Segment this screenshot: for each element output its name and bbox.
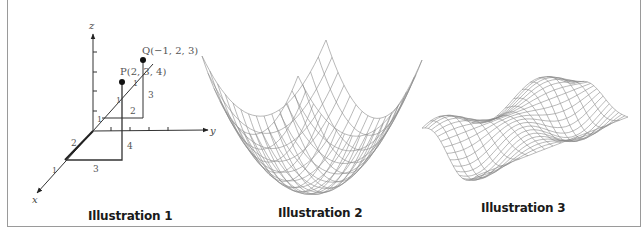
coordinate-system-diagram: z y x P(2, 3, 4) Q(−1, 2, 3) 3 2 4 3 2 1…	[0, 0, 220, 241]
z-axis-label: z	[88, 20, 95, 31]
illustration-2-caption: Illustration 2	[278, 206, 363, 220]
tick-label-1d: 1	[52, 166, 57, 175]
illustration-1-caption: Illustration 1	[88, 209, 173, 223]
p-y-distance-label: 3	[93, 164, 99, 174]
tick-label-1b: 1	[116, 96, 121, 105]
tick-label-1c: 1	[133, 79, 138, 88]
q-y-distance-label: 2	[130, 106, 136, 116]
x-tick-label-2: 2	[71, 138, 77, 148]
paraboloid-surface	[200, 40, 425, 205]
x-axis-label: x	[32, 194, 38, 205]
point-p-label: P(2, 3, 4)	[120, 66, 166, 77]
point-q-label: Q(−1, 2, 3)	[142, 45, 198, 56]
tick-label-1a: 1	[97, 115, 102, 124]
illustration-3-caption: Illustration 3	[481, 201, 566, 215]
q-z-distance-label: 3	[148, 90, 154, 100]
p-z-distance-label: 4	[127, 141, 133, 151]
wave-surface	[418, 45, 632, 205]
